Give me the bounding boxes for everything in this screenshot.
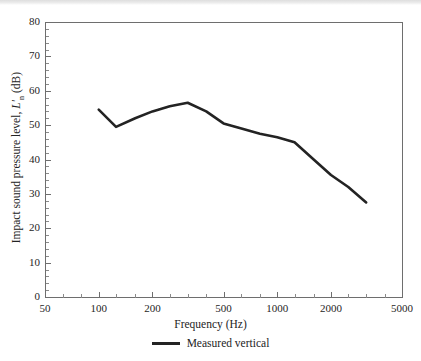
- tick-marks-group: [46, 23, 403, 298]
- axes-group: [46, 23, 403, 298]
- x-tick-label: 100: [74, 303, 124, 314]
- x-tick-label: 50: [20, 303, 70, 314]
- series-line-0: [99, 103, 366, 203]
- chart-legend: Measured vertical: [0, 337, 421, 349]
- x-tick-label: 5000: [377, 303, 421, 314]
- x-tick-label: 2000: [306, 303, 356, 314]
- y-axis-title-subscript: n: [17, 96, 26, 100]
- y-axis-title-symbol: L': [10, 100, 22, 109]
- legend-label-measured-vertical: Measured vertical: [187, 337, 270, 349]
- x-tick-label: 1000: [252, 303, 302, 314]
- x-tick-label: 500: [199, 303, 249, 314]
- legend-line-swatch: [152, 342, 180, 345]
- y-axis-title-prefix: Impact sound pressure level,: [10, 109, 22, 243]
- x-tick-label: 200: [127, 303, 177, 314]
- chart-figure: 01020304050607080 5010020050010002000500…: [0, 0, 421, 361]
- y-tick-label: 0: [6, 291, 40, 302]
- y-tick-label: 80: [6, 16, 40, 27]
- x-axis-title: Frequency (Hz): [0, 318, 421, 330]
- y-axis-title-units: (dB): [10, 72, 22, 96]
- y-axis-title: Impact sound pressure level, L'n (dB): [10, 28, 25, 288]
- series-group: [99, 103, 366, 203]
